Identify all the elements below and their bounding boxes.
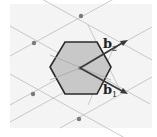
brillouin-zone-diagram: b2 b1 <box>0 0 157 137</box>
